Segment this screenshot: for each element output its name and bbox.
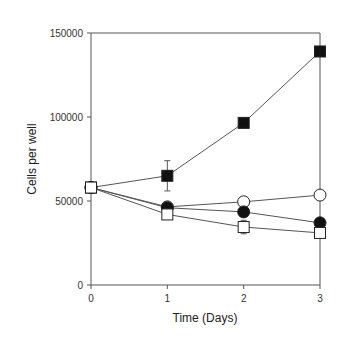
series-open-circle [85, 182, 326, 213]
y-tick-label: 0 [77, 280, 83, 291]
data-point-square [162, 209, 173, 220]
data-point-square [315, 46, 326, 57]
line-chart: 0500001000001500000123 Time (Days) Cells… [0, 0, 349, 343]
series-line [91, 188, 320, 207]
data-point-square [162, 170, 173, 181]
series-line [91, 51, 320, 187]
series-filled-circle [85, 182, 326, 229]
x-tick-label: 3 [317, 293, 323, 304]
axes: 0500001000001500000123 [50, 28, 324, 304]
x-axis-label: Time (Days) [173, 311, 238, 325]
data-point-square [238, 222, 249, 233]
data-point-circle [314, 189, 326, 201]
x-tick-label: 2 [241, 293, 247, 304]
data-point-square [315, 227, 326, 238]
y-tick-label: 50000 [55, 196, 83, 207]
x-tick-label: 1 [165, 293, 171, 304]
series-group [85, 46, 326, 238]
series-filled-square [86, 46, 326, 193]
series-line [91, 188, 320, 223]
data-point-square [86, 182, 97, 193]
y-tick-label: 150000 [50, 28, 84, 39]
y-axis-label: Cells per well [25, 123, 39, 194]
y-tick-label: 100000 [50, 112, 84, 123]
data-point-circle [238, 206, 250, 218]
data-point-square [238, 117, 249, 128]
x-tick-label: 0 [88, 293, 94, 304]
